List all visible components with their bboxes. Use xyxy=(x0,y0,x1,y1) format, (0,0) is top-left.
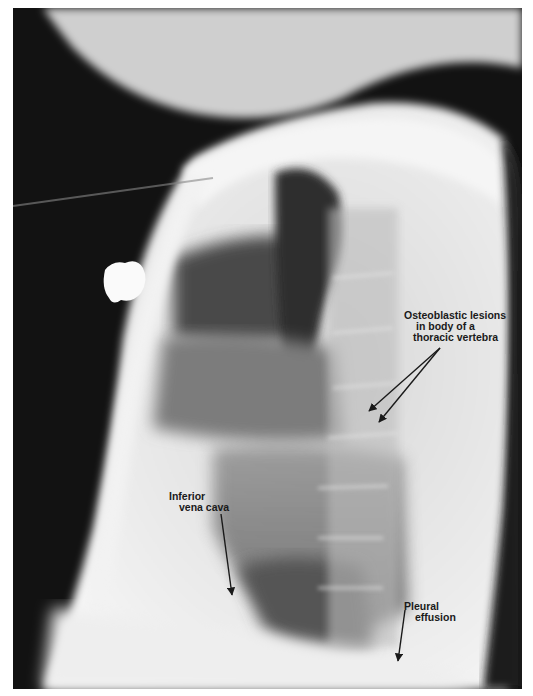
label-line: effusion xyxy=(404,612,456,623)
label-osteoblastic-lesions: Osteoblastic lesions in body of a thorac… xyxy=(404,310,506,343)
label-pleural-effusion: Pleural effusion xyxy=(404,601,456,623)
label-line: vena cava xyxy=(169,502,229,513)
radiograph-graphic xyxy=(13,8,522,689)
xray-image xyxy=(13,8,522,689)
label-line: thoracic vertebra xyxy=(404,332,506,343)
label-inferior-vena-cava: Inferior vena cava xyxy=(169,491,229,513)
